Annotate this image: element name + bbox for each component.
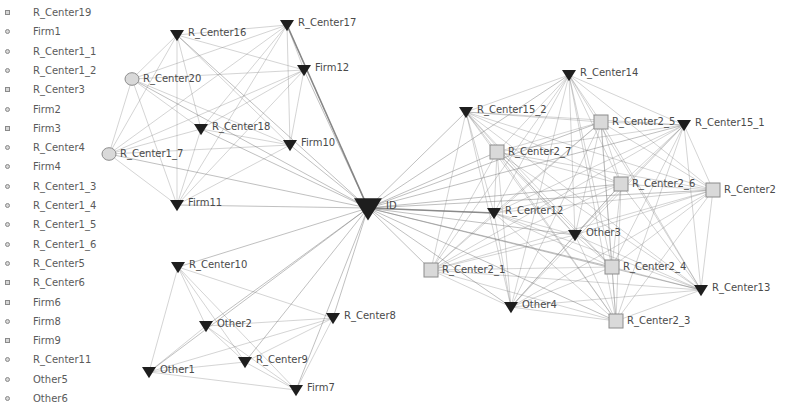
node-label: R_Center8 xyxy=(344,310,396,322)
edge xyxy=(368,208,431,270)
edge xyxy=(368,112,466,208)
edge xyxy=(177,35,368,208)
edge xyxy=(701,190,713,290)
edge xyxy=(109,35,177,154)
graph-node[interactable]: R_Center2_5 xyxy=(594,115,675,129)
node-label: R_Center2_5 xyxy=(612,116,675,128)
node-label: R_Center2_7 xyxy=(508,146,571,158)
triangle-node-icon xyxy=(170,200,184,211)
graph-node[interactable]: Other1 xyxy=(142,364,195,378)
graph-node[interactable]: R_Center17 xyxy=(280,17,356,31)
node-label: R_Center14 xyxy=(580,67,638,79)
node-label: R_Center20 xyxy=(143,73,201,85)
edge xyxy=(177,129,201,205)
edge xyxy=(612,125,684,267)
edge xyxy=(497,152,511,307)
edge xyxy=(368,75,569,208)
edge xyxy=(290,70,304,145)
edge xyxy=(612,190,713,267)
edge xyxy=(368,208,511,307)
graph-node[interactable]: R_Center10 xyxy=(171,259,247,273)
edge xyxy=(178,267,245,362)
node-label: R_Center2_1 xyxy=(442,264,505,276)
edge xyxy=(109,154,177,205)
edge xyxy=(431,122,601,270)
edge xyxy=(431,270,616,321)
edge xyxy=(109,154,368,208)
edge xyxy=(368,122,601,208)
node-label: R_Center16 xyxy=(188,27,246,39)
graph-node[interactable]: R_Center13 xyxy=(694,282,770,296)
square-node-icon xyxy=(594,115,608,129)
edge xyxy=(431,112,466,270)
node-label: R_Center2_4 xyxy=(623,261,686,273)
edge xyxy=(466,112,575,235)
graph-node[interactable]: R_Center20 xyxy=(125,73,201,86)
edge xyxy=(287,25,368,208)
node-label: R_Center13 xyxy=(712,282,770,294)
node-label: R_Center2_6 xyxy=(632,178,695,190)
graph-node[interactable]: R_Center1_7 xyxy=(102,148,183,161)
edge xyxy=(621,125,684,184)
edge xyxy=(132,79,201,129)
edge xyxy=(575,235,616,321)
edge xyxy=(601,122,621,184)
square-node-icon xyxy=(605,260,619,274)
triangle-node-icon xyxy=(283,140,297,151)
graph-node[interactable]: Firm11 xyxy=(170,197,222,211)
edge xyxy=(109,79,132,154)
graph-node[interactable]: R_Center8 xyxy=(326,310,396,324)
graph-node[interactable]: R_Center2_1 xyxy=(424,263,505,277)
node-label: Firm12 xyxy=(315,62,349,73)
node-label: R_Center15_2 xyxy=(477,104,547,116)
edge xyxy=(616,125,684,321)
triangle-node-icon xyxy=(326,313,340,324)
edge xyxy=(621,184,701,290)
node-label: Other3 xyxy=(586,227,621,238)
graph-node[interactable]: R_Center14 xyxy=(562,67,638,81)
node-label: Firm7 xyxy=(307,382,335,393)
edge xyxy=(612,267,616,321)
square-node-icon xyxy=(614,177,628,191)
graph-node[interactable]: R_Center2_3 xyxy=(609,314,690,328)
node-label: R_Center12 xyxy=(505,205,563,217)
triangle-node-icon xyxy=(171,262,185,273)
node-label: Firm11 xyxy=(188,197,222,208)
graph-node[interactable]: R_Center2 xyxy=(706,183,776,197)
network-graph: IDR_Center16R_Center17Firm12R_Center20R_… xyxy=(0,0,790,413)
triangle-node-icon xyxy=(289,385,303,396)
edge xyxy=(132,79,177,205)
edge xyxy=(132,79,290,145)
node-label: Other2 xyxy=(217,318,252,329)
node-label: R_Center9 xyxy=(256,354,308,366)
square-node-icon xyxy=(490,145,504,159)
graph-node[interactable]: R_Center2_7 xyxy=(490,145,571,159)
square-node-icon xyxy=(424,263,438,277)
node-label: R_Center17 xyxy=(298,17,356,29)
edge xyxy=(616,190,713,321)
triangle-node-icon xyxy=(562,70,576,81)
edge xyxy=(245,362,296,390)
graph-node[interactable]: Other2 xyxy=(199,318,252,332)
edge xyxy=(178,267,206,326)
edge xyxy=(245,208,368,362)
edge xyxy=(177,25,287,205)
graph-node[interactable]: R_Center18 xyxy=(194,121,270,135)
node-label: R_Center1_7 xyxy=(120,148,183,160)
graph-node[interactable]: Firm7 xyxy=(289,382,335,396)
edge xyxy=(333,208,368,318)
square-node-icon xyxy=(706,183,720,197)
edge xyxy=(569,75,616,321)
graph-node[interactable]: R_Center15_1 xyxy=(677,117,765,131)
node-label: R_Center15_1 xyxy=(695,117,765,129)
node-label: R_Center18 xyxy=(212,121,270,133)
node-label: Other4 xyxy=(522,299,557,310)
edge xyxy=(206,326,245,362)
node-layer: IDR_Center16R_Center17Firm12R_Center20R_… xyxy=(102,17,776,396)
graph-node[interactable]: R_Center2_6 xyxy=(614,177,695,191)
circle-node-icon xyxy=(125,73,139,86)
graph-node[interactable]: Other4 xyxy=(504,299,557,313)
graph-node[interactable]: R_Center2_4 xyxy=(605,260,686,274)
circle-node-icon xyxy=(102,148,116,161)
node-label: R_Center10 xyxy=(189,259,247,271)
